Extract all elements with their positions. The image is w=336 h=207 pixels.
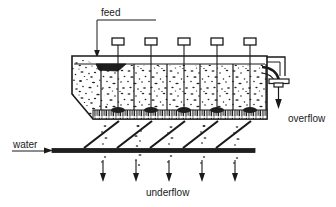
underflow-arrow-icon-5 (100, 173, 106, 182)
valve-box-2[interactable] (145, 38, 157, 45)
water-label: water (12, 139, 38, 150)
underflow-arrows (100, 160, 238, 182)
feed-label: feed (101, 7, 120, 18)
overflow-spigot (274, 83, 283, 87)
classifier-tank (72, 56, 267, 119)
spigot-pipe-1 (84, 121, 119, 148)
underflow-group: underflow (100, 125, 240, 198)
underflow-arrow-icon-1 (133, 173, 139, 182)
spigot-pipe-2 (117, 121, 152, 148)
underflow-arrow-icon-4 (232, 173, 238, 182)
overflow-arrow-icon (275, 99, 282, 109)
valve-box-3[interactable] (178, 38, 190, 45)
valve-box-5[interactable] (244, 38, 256, 45)
spigot-pipes-group (84, 121, 251, 148)
tank-freeboard (72, 56, 267, 64)
valve-cone-1 (111, 107, 125, 113)
underflow-arrow-icon-2 (166, 173, 172, 182)
valve-box-4[interactable] (211, 38, 223, 45)
valve-cone-3 (177, 107, 191, 113)
spigot-pipe-4 (183, 121, 218, 148)
water-manifold-pipe (52, 149, 255, 153)
valve-box-1[interactable] (112, 38, 124, 45)
feed-flow-group: feed (94, 7, 156, 58)
valve-cone-4 (210, 107, 224, 113)
underflow-arrow-icon-3 (199, 173, 205, 182)
diagram-canvas: feed (0, 0, 336, 207)
spigot-pipe-3 (150, 121, 185, 148)
valve-cone-2 (144, 107, 158, 113)
underflow-label: underflow (146, 187, 190, 198)
classifier-diagram: feed (0, 0, 336, 207)
overflow-label: overflow (288, 113, 326, 124)
spigot-pipe-5 (216, 121, 251, 148)
overflow-group: overflow (262, 57, 326, 124)
valve-cone-5 (243, 107, 257, 113)
